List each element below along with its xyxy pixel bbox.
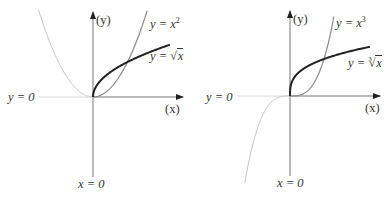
curve-label-cbrt-x: y = 3√x: [348, 57, 382, 70]
root-label-base: y =: [348, 56, 368, 70]
root-label-radicand: x: [177, 48, 184, 63]
root-label-base: y =: [150, 49, 170, 63]
x-zero-label-text: x = 0: [78, 177, 104, 191]
y-zero-label-text: y = 0: [8, 90, 34, 104]
y-axis-label: (y): [96, 14, 111, 27]
y-axis-label-text: (y): [293, 12, 308, 26]
x-axis-label: (x): [365, 102, 380, 115]
panel-cube-and-cbrt: [237, 11, 380, 183]
y-axis-label-text: (y): [96, 13, 111, 27]
curve-label-x-squared: y = x2: [150, 18, 180, 31]
y-zero-label: y = 0: [206, 91, 232, 104]
power-label-base: y = x: [336, 16, 362, 30]
panel-square-and-sqrt: [38, 10, 183, 177]
x-axis-label-text: (x): [165, 102, 180, 116]
curve-x-cubed: [290, 17, 334, 96]
curve-x-squared-negative-branch: [38, 10, 93, 97]
x-zero-label-text: x = 0: [277, 176, 303, 190]
radical-sign-icon: √: [170, 49, 177, 63]
curve-label-x-cubed: y = x3: [336, 17, 366, 30]
root-label-radicand: x: [375, 55, 382, 70]
curve-x-cubed-negative-branch: [245, 96, 290, 183]
x-zero-label: x = 0: [277, 177, 303, 190]
power-label-exponent: 2: [176, 16, 180, 25]
function-graphs-figure: [0, 0, 391, 198]
curve-label-sqrt-x: y = √x: [150, 50, 183, 63]
y-zero-label-text: y = 0: [206, 90, 232, 104]
power-label-exponent: 3: [362, 15, 366, 24]
power-label-base: y = x: [150, 17, 176, 31]
curve-cbrt-x: [290, 47, 370, 96]
x-axis-label-text: (x): [365, 101, 380, 115]
y-axis-label: (y): [293, 13, 308, 26]
x-axis-label: (x): [165, 103, 180, 116]
y-zero-label: y = 0: [8, 91, 34, 104]
x-zero-label: x = 0: [78, 178, 104, 191]
